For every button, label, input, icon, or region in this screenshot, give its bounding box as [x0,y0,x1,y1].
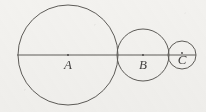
center-dot-a [67,54,69,56]
label-circle-a: A [63,57,72,72]
label-circle-c: C [178,52,187,67]
label-circle-b: B [139,57,147,72]
geometry-figure: A B C [0,0,206,112]
center-dot-b [142,54,144,56]
figure-canvas: A B C [0,0,206,112]
